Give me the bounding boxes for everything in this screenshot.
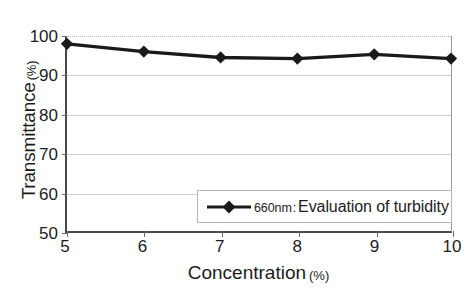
- y-tick-label-70: 70: [24, 146, 58, 163]
- y-tick-label-60: 60: [24, 186, 58, 203]
- y-tick-mark-80: [62, 115, 67, 116]
- data-point-marker-9: [368, 48, 380, 60]
- y-tick-label-80: 80: [24, 107, 58, 124]
- data-point-marker-7: [214, 51, 226, 63]
- gridline-y-80: [67, 115, 451, 116]
- y-tick-mark-70: [62, 154, 67, 155]
- legend-description: Evaluation of turbidity: [298, 198, 449, 215]
- data-point-marker-5: [61, 38, 73, 50]
- data-point-marker-10: [445, 52, 457, 64]
- legend-entry-label: 660nm:Evaluation of turbidity: [254, 198, 449, 216]
- series-line: [67, 44, 451, 59]
- legend-wavelength: 660nm: [254, 201, 292, 215]
- gridline-y-90: [67, 75, 451, 76]
- y-tick-label-90: 90: [24, 67, 58, 84]
- legend-line-marker-icon: [207, 200, 251, 214]
- x-tick-label-6: 6: [122, 238, 162, 255]
- y-tick-mark-90: [62, 75, 67, 76]
- data-point-marker-6: [138, 45, 150, 57]
- legend-separator: :: [293, 201, 296, 215]
- x-axis-title: Concentration(%): [65, 262, 452, 284]
- x-tick-label-7: 7: [200, 238, 240, 255]
- x-tick-label-10: 10: [432, 238, 472, 255]
- x-tick-label-8: 8: [277, 238, 317, 255]
- chart-legend: 660nm:Evaluation of turbidity: [197, 190, 452, 223]
- x-axis-title-unit: (%): [309, 268, 329, 283]
- gridline-y-70: [67, 154, 451, 155]
- x-tick-label-5: 5: [45, 238, 85, 255]
- x-axis-tick-labels: 5678910: [0, 238, 474, 260]
- y-tick-mark-100: [62, 36, 67, 37]
- y-tick-label-100: 100: [24, 28, 58, 45]
- data-point-marker-8: [291, 52, 303, 64]
- gridline-y-100: [67, 36, 451, 37]
- chart-figure: Transmittance(%) 5060708090100 5678910 C…: [0, 0, 474, 288]
- x-axis-title-text: Concentration: [188, 262, 306, 283]
- y-tick-mark-60: [62, 194, 67, 195]
- x-tick-label-9: 9: [355, 238, 395, 255]
